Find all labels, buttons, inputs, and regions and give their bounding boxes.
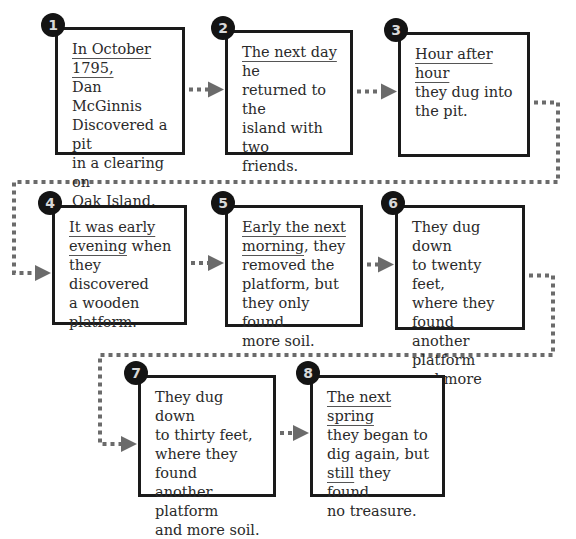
step-line: They dug down (412, 218, 514, 256)
step-line: It was early (69, 218, 176, 237)
text-span: they dug into (415, 84, 513, 100)
text-span: to twenty feet, (412, 257, 481, 292)
text-span: friends. (242, 158, 298, 174)
arrow-icon (378, 257, 394, 273)
step-line: The next spring (327, 388, 434, 426)
text-span: they only found (242, 295, 309, 330)
arrow-icon (35, 265, 51, 281)
step-line: The next day he (242, 43, 342, 81)
underlined-phrase: It was early (69, 219, 155, 235)
step-line: friends. (242, 157, 342, 176)
step-number-badge-8: 8 (296, 361, 320, 385)
step-line: They dug down (155, 388, 265, 426)
step-line: dig again, but (327, 445, 434, 464)
step-line: the pit. (415, 102, 519, 121)
underlined-phrase: evening (69, 238, 127, 254)
step-line: Early the next (242, 218, 352, 237)
arrow-icon (293, 425, 309, 441)
underlined-phrase: The next spring (327, 389, 391, 424)
text-span: where they found (155, 446, 237, 481)
step-line: platform. (69, 313, 176, 332)
text-span: they began to (327, 427, 428, 443)
step-text: In October 1795,Dan McGinnisDiscovered a… (72, 40, 174, 211)
step-line: they only found (242, 294, 352, 332)
text-span: a wooden (69, 295, 139, 311)
step-line: still they found (327, 464, 434, 502)
text-span: Discovered a pit (72, 117, 167, 152)
step-text: They dug downto thirty feet,where they f… (155, 388, 265, 539)
step-line: Discovered a pit (72, 116, 174, 154)
step-line: to thirty feet, (155, 426, 265, 445)
text-span: more soil. (242, 333, 315, 349)
step-box-2: The next day hereturned to theisland wit… (225, 30, 353, 155)
underlined-phrase: The next day (242, 44, 337, 60)
step-line: removed the (242, 256, 352, 275)
step-number-badge-3: 3 (384, 18, 408, 42)
text-span: , they (304, 238, 345, 254)
step-line: In October 1795, (72, 40, 174, 78)
step-number-badge-1: 1 (41, 13, 65, 37)
step-line: they discovered (69, 256, 176, 294)
text-span: when (127, 238, 171, 254)
text-span: to thirty feet, (155, 427, 253, 443)
underlined-phrase: Early the next (242, 219, 346, 235)
step-box-1: In October 1795,Dan McGinnisDiscovered a… (55, 27, 185, 155)
step-number-badge-4: 4 (38, 191, 62, 215)
text-span: dig again, but (327, 446, 429, 462)
step-line: evening when (69, 237, 176, 256)
step-text: The next day hereturned to theisland wit… (242, 43, 342, 176)
arrow-icon (381, 84, 397, 100)
underlined-phrase: In October 1795, (72, 41, 151, 76)
step-line: more soil. (242, 332, 352, 351)
text-span: Dan McGinnis (72, 79, 142, 114)
text-span: and more soil. (155, 522, 260, 538)
text-span: platform. (69, 314, 137, 330)
step-number-badge-5: 5 (211, 191, 235, 215)
text-span: they discovered (69, 257, 149, 292)
text-span: another platform (155, 484, 218, 519)
step-line: island with two (242, 119, 342, 157)
step-line: they dug into (415, 83, 519, 102)
text-span: removed the (242, 257, 334, 273)
step-line: Dan McGinnis (72, 78, 174, 116)
step-line: where they found (155, 445, 265, 483)
step-line: a wooden (69, 294, 176, 313)
step-line: in a clearing on (72, 154, 174, 192)
underlined-phrase: still (327, 465, 354, 481)
text-span: in a clearing on (72, 155, 164, 190)
arrow-icon (208, 255, 224, 271)
step-line: returned to the (242, 81, 342, 119)
text-span: the pit. (415, 103, 468, 119)
text-span: They dug down (155, 389, 223, 424)
text-span: island with two (242, 120, 323, 155)
step-line: where they found (412, 294, 514, 332)
text-span: platform, but (242, 276, 339, 292)
step-line: Hour after hour (415, 45, 519, 83)
step-line: they began to (327, 426, 434, 445)
step-text: It was earlyevening whenthey discovereda… (69, 218, 176, 332)
step-line: and more soil. (155, 521, 265, 539)
step-line: another platform (155, 483, 265, 521)
step-number-badge-6: 6 (381, 191, 405, 215)
step-text: The next springthey began todig again, b… (327, 388, 434, 521)
step-box-5: Early the nextmorning, theyremoved thepl… (225, 205, 363, 327)
text-span: where they found (412, 295, 494, 330)
underlined-phrase: morning (242, 238, 304, 254)
step-box-4: It was earlyevening whenthey discovereda… (52, 205, 187, 325)
step-number-badge-7: 7 (124, 361, 148, 385)
step-line: morning, they (242, 237, 352, 256)
arrow-icon (121, 436, 137, 452)
underlined-phrase: Hour after hour (415, 46, 493, 81)
step-line: to twenty feet, (412, 256, 514, 294)
step-text: Hour after hourthey dug intothe pit. (415, 45, 519, 121)
step-line: another platform (412, 332, 514, 370)
step-line: platform, but (242, 275, 352, 294)
step-box-3: Hour after hourthey dug intothe pit. (398, 32, 530, 157)
step-number-badge-2: 2 (211, 16, 235, 40)
step-line: no treasure. (327, 502, 434, 521)
step-text: Early the nextmorning, theyremoved thepl… (242, 218, 352, 351)
text-span: They dug down (412, 219, 480, 254)
text-span: returned to the (242, 82, 326, 117)
step-box-7: They dug downto thirty feet,where they f… (138, 375, 276, 497)
arrow-icon (208, 82, 224, 98)
